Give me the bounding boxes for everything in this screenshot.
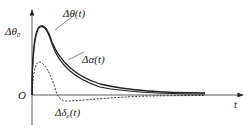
origin-label: O (18, 89, 26, 101)
y-peak-label: Δθ0 (4, 25, 21, 39)
delta-alpha-label: Δα(t) (81, 53, 105, 66)
x-axis-label: t (234, 98, 238, 110)
delta-theta-curve (32, 26, 205, 95)
delta-delta-e-label: Δδe(t) (54, 106, 80, 120)
response-diagram: Δθ0 Δθ(t) Δα(t) Δδe(t) O t (0, 0, 251, 135)
delta-alpha-curve (32, 27, 205, 95)
delta-theta-label: Δθ(t) (62, 7, 86, 20)
